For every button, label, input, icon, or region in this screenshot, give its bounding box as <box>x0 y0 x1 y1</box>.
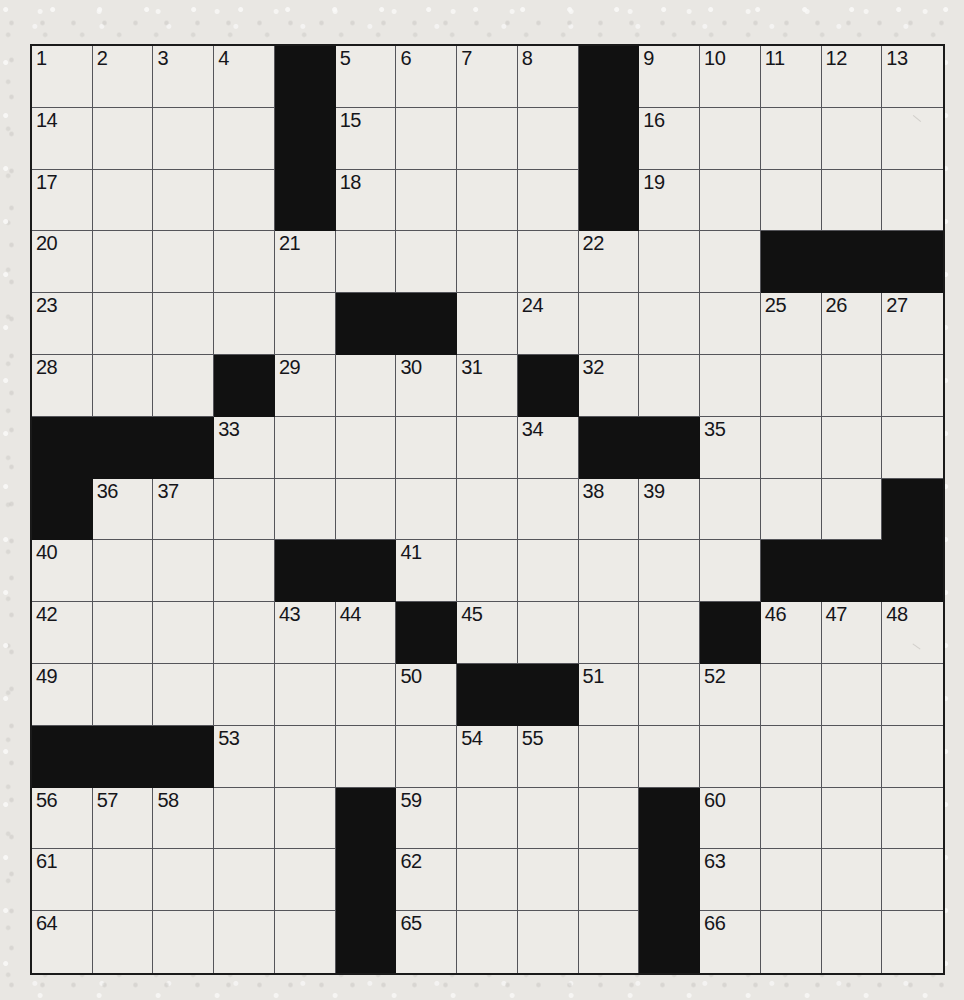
grid-cell[interactable] <box>518 788 579 850</box>
grid-cell[interactable] <box>214 540 275 602</box>
grid-cell[interactable] <box>275 726 336 788</box>
grid-cell[interactable]: 49 <box>32 664 93 726</box>
grid-cell[interactable]: 4 <box>214 46 275 108</box>
grid-cell[interactable] <box>761 417 822 479</box>
grid-cell[interactable]: 15 <box>336 108 397 170</box>
grid-cell[interactable] <box>700 726 761 788</box>
grid-cell[interactable]: 3 <box>153 46 214 108</box>
grid-cell[interactable] <box>275 911 336 973</box>
grid-cell[interactable] <box>153 540 214 602</box>
grid-cell[interactable] <box>761 664 822 726</box>
grid-cell[interactable] <box>153 108 214 170</box>
grid-cell[interactable]: 34 <box>518 417 579 479</box>
grid-cell[interactable] <box>822 788 883 850</box>
grid-cell[interactable] <box>882 849 943 911</box>
grid-cell[interactable] <box>396 726 457 788</box>
grid-cell[interactable]: 6 <box>396 46 457 108</box>
grid-cell[interactable] <box>761 911 822 973</box>
grid-cell[interactable]: 54 <box>457 726 518 788</box>
grid-cell[interactable]: 13 <box>882 46 943 108</box>
grid-cell[interactable]: 40 <box>32 540 93 602</box>
grid-cell[interactable] <box>336 417 397 479</box>
grid-cell[interactable] <box>579 726 640 788</box>
grid-cell[interactable]: 29 <box>275 355 336 417</box>
grid-cell[interactable] <box>639 231 700 293</box>
grid-cell[interactable] <box>761 108 822 170</box>
grid-cell[interactable] <box>761 849 822 911</box>
grid-cell[interactable]: 48 <box>882 602 943 664</box>
grid-cell[interactable] <box>93 664 154 726</box>
grid-cell[interactable] <box>882 355 943 417</box>
grid-cell[interactable] <box>153 911 214 973</box>
grid-cell[interactable] <box>639 293 700 355</box>
grid-cell[interactable]: 43 <box>275 602 336 664</box>
grid-cell[interactable]: 61 <box>32 849 93 911</box>
grid-cell[interactable] <box>457 108 518 170</box>
grid-cell[interactable]: 8 <box>518 46 579 108</box>
grid-cell[interactable]: 18 <box>336 170 397 232</box>
grid-cell[interactable]: 30 <box>396 355 457 417</box>
grid-cell[interactable]: 39 <box>639 479 700 541</box>
grid-cell[interactable] <box>639 355 700 417</box>
grid-cell[interactable] <box>882 108 943 170</box>
grid-cell[interactable] <box>579 911 640 973</box>
grid-cell[interactable]: 45 <box>457 602 518 664</box>
grid-cell[interactable]: 2 <box>93 46 154 108</box>
grid-cell[interactable] <box>457 479 518 541</box>
grid-cell[interactable] <box>700 170 761 232</box>
grid-cell[interactable] <box>700 540 761 602</box>
grid-cell[interactable]: 35 <box>700 417 761 479</box>
grid-cell[interactable]: 41 <box>396 540 457 602</box>
grid-cell[interactable] <box>457 849 518 911</box>
grid-cell[interactable]: 22 <box>579 231 640 293</box>
grid-cell[interactable]: 20 <box>32 231 93 293</box>
grid-cell[interactable] <box>639 540 700 602</box>
grid-cell[interactable]: 42 <box>32 602 93 664</box>
grid-cell[interactable] <box>396 231 457 293</box>
grid-cell[interactable]: 50 <box>396 664 457 726</box>
grid-cell[interactable] <box>639 726 700 788</box>
grid-cell[interactable] <box>518 170 579 232</box>
grid-cell[interactable] <box>214 788 275 850</box>
grid-cell[interactable] <box>214 664 275 726</box>
grid-cell[interactable] <box>214 849 275 911</box>
grid-cell[interactable]: 46 <box>761 602 822 664</box>
grid-cell[interactable] <box>214 911 275 973</box>
grid-cell[interactable] <box>153 293 214 355</box>
grid-cell[interactable] <box>457 911 518 973</box>
grid-cell[interactable] <box>700 355 761 417</box>
grid-cell[interactable]: 55 <box>518 726 579 788</box>
grid-cell[interactable] <box>336 479 397 541</box>
grid-cell[interactable]: 37 <box>153 479 214 541</box>
grid-cell[interactable] <box>336 355 397 417</box>
grid-cell[interactable]: 23 <box>32 293 93 355</box>
grid-cell[interactable] <box>579 788 640 850</box>
grid-cell[interactable]: 44 <box>336 602 397 664</box>
grid-cell[interactable]: 47 <box>822 602 883 664</box>
grid-cell[interactable] <box>214 602 275 664</box>
grid-cell[interactable] <box>882 911 943 973</box>
grid-cell[interactable] <box>153 849 214 911</box>
grid-cell[interactable] <box>93 108 154 170</box>
grid-cell[interactable]: 58 <box>153 788 214 850</box>
grid-cell[interactable] <box>275 293 336 355</box>
grid-cell[interactable]: 64 <box>32 911 93 973</box>
grid-cell[interactable]: 36 <box>93 479 154 541</box>
grid-cell[interactable]: 65 <box>396 911 457 973</box>
grid-cell[interactable]: 16 <box>639 108 700 170</box>
grid-cell[interactable] <box>579 849 640 911</box>
grid-cell[interactable] <box>882 417 943 479</box>
grid-cell[interactable]: 5 <box>336 46 397 108</box>
grid-cell[interactable] <box>153 355 214 417</box>
grid-cell[interactable] <box>882 170 943 232</box>
grid-cell[interactable] <box>700 231 761 293</box>
grid-cell[interactable]: 31 <box>457 355 518 417</box>
grid-cell[interactable]: 66 <box>700 911 761 973</box>
grid-cell[interactable] <box>518 602 579 664</box>
grid-cell[interactable] <box>93 293 154 355</box>
grid-cell[interactable]: 9 <box>639 46 700 108</box>
grid-cell[interactable] <box>336 664 397 726</box>
grid-cell[interactable] <box>457 170 518 232</box>
grid-cell[interactable]: 57 <box>93 788 154 850</box>
grid-cell[interactable] <box>457 788 518 850</box>
